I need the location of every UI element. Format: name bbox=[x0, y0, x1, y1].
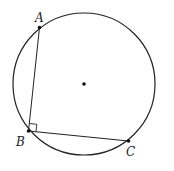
label-c: C bbox=[126, 145, 135, 159]
geometry-diagram: A B C bbox=[0, 0, 174, 171]
chord-bc bbox=[29, 131, 129, 141]
label-b: B bbox=[15, 135, 25, 149]
chord-ab bbox=[29, 28, 40, 132]
point-c bbox=[127, 139, 131, 143]
point-b bbox=[27, 129, 31, 133]
center-point bbox=[82, 82, 86, 86]
point-a bbox=[38, 26, 42, 30]
label-a: A bbox=[34, 11, 44, 25]
